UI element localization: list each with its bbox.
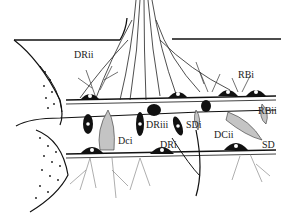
label-dci: Dci bbox=[118, 136, 132, 146]
label-sd: SD bbox=[262, 140, 275, 150]
label-driii: DRiii bbox=[146, 120, 168, 130]
label-sdi: SDi bbox=[186, 120, 202, 130]
illustration: DRii RBi RBii DRiii SDi DCii Dci DRi SD bbox=[0, 0, 296, 216]
label-dcii: DCii bbox=[214, 130, 233, 140]
label-rbi: RBi bbox=[238, 70, 254, 80]
label-rbii: RBii bbox=[258, 106, 277, 116]
label-drii: DRii bbox=[74, 50, 93, 60]
label-dri: DRi bbox=[160, 140, 177, 150]
cell-diagram bbox=[0, 0, 296, 216]
